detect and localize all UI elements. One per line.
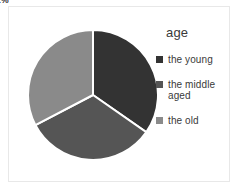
legend-swatch-the-middle-aged xyxy=(156,81,163,88)
slice-percentage-label: 32% xyxy=(0,0,9,5)
legend-item-label: the middle aged xyxy=(168,79,236,102)
legend-item-label: the young xyxy=(168,54,213,66)
legend-item[interactable]: the middle aged xyxy=(156,79,236,102)
legend-title: age xyxy=(166,26,236,40)
legend-swatch-the-young xyxy=(156,56,163,63)
pie-slices xyxy=(28,30,158,160)
legend-item[interactable]: the young xyxy=(156,54,236,66)
legend-items: the youngthe middle agedthe old xyxy=(156,54,236,126)
chart-legend: age the youngthe middle agedthe old xyxy=(156,26,236,139)
legend-item[interactable]: the old xyxy=(156,115,236,127)
pie-svg xyxy=(26,28,160,162)
legend-item-label: the old xyxy=(168,115,199,127)
pie-chart-figure: 34%32%32% age the youngthe middle agedth… xyxy=(0,0,238,193)
legend-swatch-the-old xyxy=(156,117,163,124)
